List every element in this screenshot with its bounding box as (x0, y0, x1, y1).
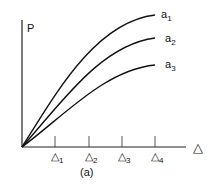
curve-a1 (22, 15, 155, 147)
y-axis-label: P (27, 22, 34, 34)
x-axis-label: △ (193, 140, 203, 155)
load-displacement-diagram: P △ a1 a2 a3 △1 △2 △3 △4 (a) (0, 0, 214, 190)
curve-label-a3: a3 (165, 58, 176, 73)
x-tick-label-3: △3 (118, 150, 131, 165)
x-tick-label-4: △4 (151, 150, 164, 165)
curve-label-a2: a2 (165, 32, 176, 47)
curve-a3 (22, 65, 155, 147)
curve-label-a1: a1 (161, 8, 172, 23)
x-tick-label-2: △2 (85, 150, 98, 165)
figure-caption: (a) (80, 166, 93, 178)
x-tick-label-1: △1 (51, 150, 64, 165)
